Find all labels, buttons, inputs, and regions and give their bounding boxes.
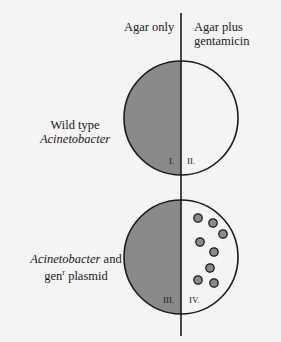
- quadrant-label-iv: IV.: [189, 293, 200, 307]
- colony: [194, 214, 202, 222]
- diagram-canvas: [0, 0, 281, 342]
- colony: [210, 248, 218, 256]
- colony: [194, 276, 202, 284]
- quadrant-label-ii: II.: [187, 154, 195, 168]
- quadrant-label-i: I.: [169, 154, 174, 168]
- header-right-line2: gentamicin: [194, 34, 250, 48]
- row-2-label-plasmid: plasmid: [65, 269, 108, 283]
- colony: [196, 238, 204, 246]
- header-agar-plus-gentamicin: Agar plus gentamicin: [194, 20, 250, 48]
- row-2-label-line2: genr plasmid: [14, 266, 138, 283]
- header-agar-only: Agar only: [124, 20, 174, 34]
- row-1-label-line2: Acinetobacter: [20, 132, 130, 146]
- quadrant-label-iii: III.: [163, 293, 174, 307]
- row-2-label-gen: gen: [44, 269, 62, 283]
- colony: [206, 264, 214, 272]
- colony: [219, 230, 227, 238]
- header-right-line1: Agar plus: [194, 20, 250, 34]
- row-label-plasmid: Acinetobacter and genr plasmid: [14, 252, 138, 283]
- row-2-label-and: and: [100, 252, 121, 266]
- row-1-label-line1: Wild type: [20, 118, 130, 132]
- colony: [210, 279, 218, 287]
- colony: [209, 219, 217, 227]
- row-label-wild-type: Wild type Acinetobacter: [20, 118, 130, 146]
- colonies-quadrant-iv: [194, 214, 227, 287]
- row-2-label-genus: Acinetobacter: [30, 252, 100, 266]
- row-2-label-line1: Acinetobacter and: [14, 252, 138, 266]
